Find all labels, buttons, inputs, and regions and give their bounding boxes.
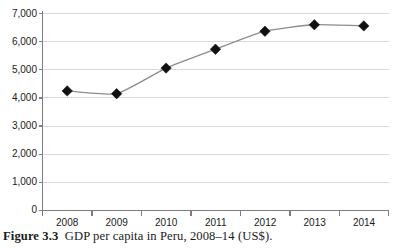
chart-plot-area: 7,000 6,000 5,000 4,000 3,000 2,000 1,00…: [0, 0, 395, 228]
gridlines: [42, 14, 389, 183]
data-point-2011: [210, 44, 220, 54]
axes: [42, 11, 389, 211]
x-tick-label-2009: 2009: [106, 217, 129, 228]
figure-container: 7,000 6,000 5,000 4,000 3,000 2,000 1,00…: [0, 0, 395, 249]
x-tick-label-2012: 2012: [254, 217, 277, 228]
x-axis-labels: 2008 2009 2010 2011 2012 2013 2014: [56, 217, 375, 228]
figure-caption-text: GDP per capita in Peru, 2008–14 (US$).: [65, 229, 273, 243]
y-tick-label-4000: 4,000: [12, 92, 37, 103]
data-point-2010: [161, 63, 171, 73]
x-tick-label-2010: 2010: [155, 217, 178, 228]
x-tick-label-2014: 2014: [353, 217, 376, 228]
data-point-2009: [111, 89, 121, 99]
data-point-2008: [62, 86, 72, 96]
series-markers: [62, 20, 369, 99]
y-tick-label-1000: 1,000: [12, 176, 37, 187]
data-point-2014: [359, 21, 369, 31]
data-point-2013: [309, 20, 319, 30]
y-axis-labels: 7,000 6,000 5,000 4,000 3,000 2,000 1,00…: [12, 8, 37, 216]
y-tick-label-7000: 7,000: [12, 8, 37, 19]
y-tick-label-6000: 6,000: [12, 36, 37, 47]
y-tick-label-0: 0: [31, 204, 37, 215]
x-axis-ticks: [43, 211, 389, 216]
data-point-2012: [260, 26, 270, 36]
x-tick-label-2011: 2011: [205, 217, 227, 228]
series-line-gdp-per-capita: [67, 25, 364, 95]
y-tick-label-3000: 3,000: [12, 120, 37, 131]
x-tick-label-2013: 2013: [304, 217, 327, 228]
y-tick-label-5000: 5,000: [12, 64, 37, 75]
x-tick-label-2008: 2008: [56, 217, 79, 228]
y-tick-label-2000: 2,000: [12, 148, 37, 159]
figure-caption-label: Figure 3.3: [3, 229, 58, 243]
figure-caption: Figure 3.3 GDP per capita in Peru, 2008–…: [3, 229, 393, 244]
line-chart-svg: 7,000 6,000 5,000 4,000 3,000 2,000 1,00…: [0, 0, 395, 228]
